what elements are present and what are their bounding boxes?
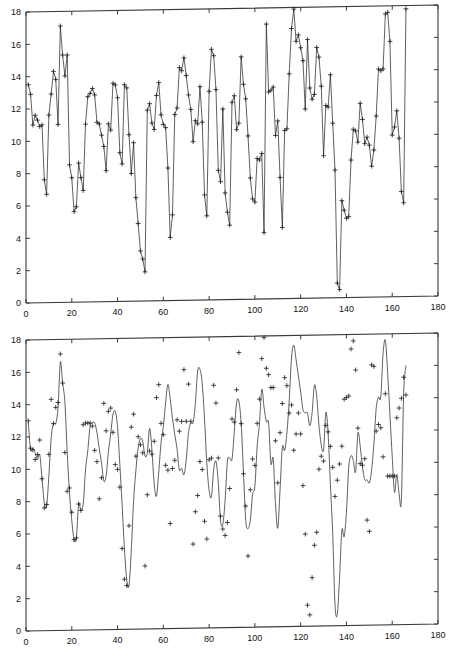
y-tick-label: 4 <box>16 234 21 244</box>
fitted-curve-path <box>28 340 406 617</box>
x-tick-label: 80 <box>204 634 214 644</box>
x-tick-label: 80 <box>204 306 214 316</box>
bottom-chart-svg: 024681012141618020406080100120140160180 <box>0 328 456 656</box>
y-tick-label: 12 <box>11 104 21 114</box>
x-tick-label: 60 <box>158 307 168 317</box>
y-tick-label: 0 <box>16 626 21 636</box>
y-tick-label: 12 <box>11 432 21 442</box>
y-tick-label: 18 <box>11 7 21 17</box>
figure-page: 024681012141618020406080100120140160180 … <box>0 0 456 656</box>
plot-area: 024681012141618020406080100120140160180 <box>11 5 446 319</box>
y-tick-label: 10 <box>11 137 21 147</box>
data-marker <box>26 335 408 617</box>
x-tick-label: 60 <box>158 635 168 645</box>
x-tick-label: 160 <box>385 303 400 313</box>
data-line-path <box>28 9 406 290</box>
y-tick-label: 10 <box>11 465 21 475</box>
x-tick-label: 120 <box>293 304 308 314</box>
y-tick-label: 6 <box>16 529 21 539</box>
data-marker <box>26 6 408 292</box>
x-tick-label: 100 <box>247 305 262 315</box>
x-tick-label: 100 <box>247 633 262 643</box>
y-tick-label: 14 <box>11 72 21 82</box>
y-tick-label: 16 <box>11 368 21 378</box>
x-tick-label: 180 <box>430 302 445 312</box>
x-tick-label: 180 <box>430 630 445 640</box>
y-tick-label: 2 <box>16 266 21 276</box>
axis-frame <box>26 333 438 631</box>
x-tick-label: 0 <box>23 637 28 647</box>
plot-area: 024681012141618020406080100120140160180 <box>11 333 446 647</box>
marker-group <box>26 335 408 617</box>
y-tick-label: 14 <box>11 400 21 410</box>
x-tick-label: 20 <box>67 636 77 646</box>
x-tick-label: 120 <box>293 632 308 642</box>
marker-group <box>26 6 408 292</box>
y-tick-label: 6 <box>16 201 21 211</box>
y-tick-label: 8 <box>16 169 21 179</box>
y-tick-label: 8 <box>16 497 21 507</box>
top-chart-svg: 024681012141618020406080100120140160180 <box>0 0 456 328</box>
x-tick-label: 40 <box>113 635 123 645</box>
x-tick-label: 140 <box>339 632 354 642</box>
axis-frame <box>26 5 438 303</box>
y-tick-label: 16 <box>11 40 21 50</box>
bottom-chart-panel: 024681012141618020406080100120140160180 <box>0 328 456 656</box>
x-tick-label: 40 <box>113 307 123 317</box>
x-tick-label: 0 <box>23 309 28 319</box>
x-tick-label: 140 <box>339 304 354 314</box>
y-tick-label: 2 <box>16 594 21 604</box>
y-tick-label: 18 <box>11 335 21 345</box>
y-tick-label: 0 <box>16 298 21 308</box>
top-chart-panel: 024681012141618020406080100120140160180 <box>0 0 456 328</box>
x-tick-label: 160 <box>385 631 400 641</box>
x-tick-label: 20 <box>67 308 77 318</box>
y-tick-label: 4 <box>16 562 21 572</box>
